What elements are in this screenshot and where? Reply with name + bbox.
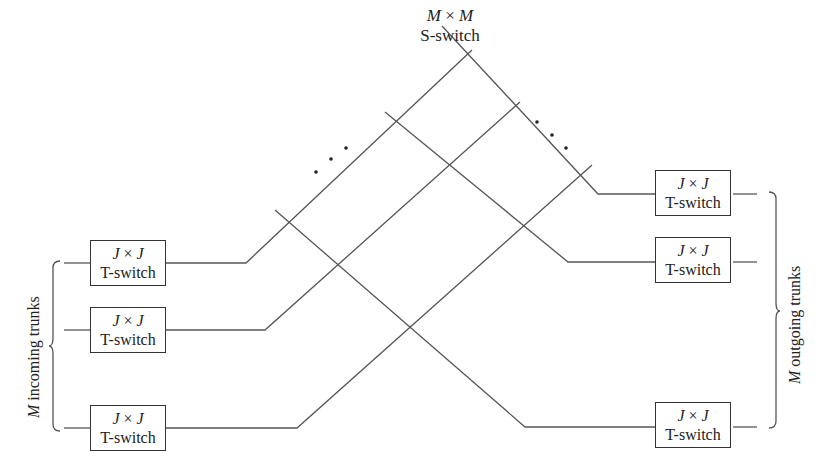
ellipsis-dots [314,120,568,174]
t-switch-label: T-switch [100,429,155,446]
incoming-t-switch-2: J × J T-switch [90,307,166,353]
incoming-t-switch-3: J × J T-switch [90,405,166,451]
outgoing-trunks-label: M outgoing trunks [786,266,804,384]
outgoing-t-switch-1: J × J T-switch [655,170,731,216]
s-switch-input-line-1 [166,50,472,263]
incoming-brace [49,261,60,431]
wiring-diagram [0,0,824,470]
s-switch-output-line-1 [442,26,655,194]
s-switch-input-line-3 [166,165,592,428]
t-switch-label: T-switch [100,331,155,348]
incoming-trunks-label: M incoming trunks [25,296,43,418]
outgoing-brace [769,192,780,428]
s-switch-label: M × M S-switch [400,6,500,46]
t-switch-label: T-switch [665,261,720,278]
s-switch-dimension: M × M [400,6,500,26]
s-switch-output-line-3 [275,210,655,427]
outgoing-t-switch-3: J × J T-switch [655,402,731,448]
t-switch-label: T-switch [665,426,720,443]
t-switch-label: T-switch [100,264,155,281]
incoming-t-switch-1: J × J T-switch [90,240,166,286]
s-switch-name: S-switch [420,26,480,45]
outgoing-t-switch-2: J × J T-switch [655,237,731,283]
s-switch-input-line-2 [166,102,520,330]
t-switch-label: T-switch [665,194,720,211]
